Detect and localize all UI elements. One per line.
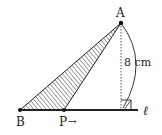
label-a: A: [115, 6, 125, 20]
label-p: P: [59, 115, 67, 129]
label-b: B: [16, 115, 25, 129]
point-p: [62, 108, 66, 112]
p-direction-arrow: →: [68, 116, 77, 127]
height-label: 8 cm: [124, 56, 152, 69]
line-l-label: ℓ: [143, 103, 149, 118]
point-a: [119, 21, 123, 25]
geometry-diagram: A B P → 8 cm ℓ: [0, 0, 162, 135]
point-b: [18, 108, 22, 112]
shaded-triangle-abp: [20, 23, 121, 110]
